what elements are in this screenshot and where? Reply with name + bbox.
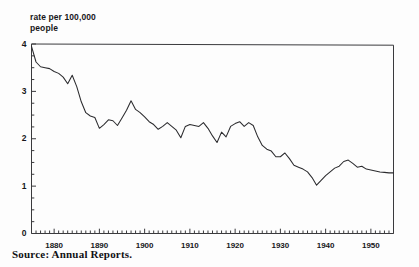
y-axis-ticks [32, 44, 37, 234]
x-tick-label: 1930 [264, 241, 296, 250]
x-axis-ticks [36, 229, 393, 234]
x-tick-label: 1900 [129, 241, 161, 250]
x-tick-label: 1910 [174, 241, 206, 250]
plot-frame [32, 44, 394, 234]
chart-figure: rate per 100,000 people 01234 1880189019… [0, 0, 419, 267]
y-tick-label: 0 [15, 228, 27, 238]
line-chart-plot [0, 0, 419, 267]
y-tick-label: 4 [15, 39, 27, 49]
x-tick-label: 1950 [355, 241, 387, 250]
y-tick-label: 1 [15, 181, 27, 191]
y-tick-label: 3 [15, 86, 27, 96]
x-tick-label: 1940 [310, 241, 342, 250]
data-series-line [32, 46, 394, 185]
source-caption: Source: Annual Reports. [12, 248, 132, 260]
x-tick-label: 1920 [219, 241, 251, 250]
y-tick-label: 2 [15, 133, 27, 143]
